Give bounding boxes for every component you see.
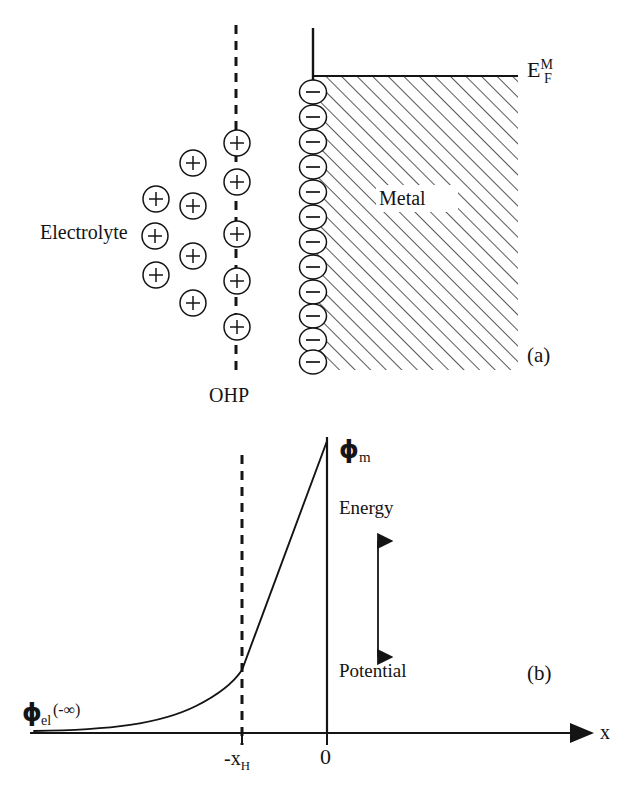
anion <box>300 328 327 352</box>
anion <box>300 230 327 254</box>
potential-label: Potential <box>339 661 407 680</box>
phi-metal-symbol: ϕ <box>339 435 359 464</box>
phi-electrolyte-symbol: ϕ <box>22 698 42 727</box>
panel-b-graphics <box>30 437 592 745</box>
anion <box>300 205 327 229</box>
energy-label: Energy <box>339 498 394 517</box>
cation <box>224 268 250 294</box>
cation <box>180 290 206 316</box>
x-axis-label: x <box>600 722 610 742</box>
figure-container: Electrolyte Metal OHP EMF (a) ϕm Energy … <box>0 0 622 790</box>
cation <box>224 130 250 156</box>
potential-curve <box>34 441 327 731</box>
metal-label: Metal <box>379 188 426 208</box>
cation <box>180 243 206 269</box>
cation <box>180 150 206 176</box>
cation <box>142 223 168 249</box>
anion <box>300 350 327 374</box>
tick-label-zero: 0 <box>320 746 331 768</box>
phi-electrolyte-superscript: (-∞) <box>53 701 80 718</box>
tick-xh-prefix: -x <box>224 747 241 769</box>
anion <box>300 105 327 129</box>
cation <box>143 186 169 212</box>
anion <box>300 130 327 154</box>
fermi-level-label: EMF <box>527 57 552 85</box>
fermi-symbol: E <box>527 57 540 82</box>
tick-label-minus-xh: -xH <box>224 748 250 773</box>
anion <box>300 80 327 104</box>
anion <box>300 180 327 204</box>
tick-xh-subscript: H <box>241 759 250 773</box>
metal-hatched-region <box>313 76 518 370</box>
ohp-label: OHP <box>209 385 249 405</box>
panel-a-tag: (a) <box>527 345 550 366</box>
anion <box>300 255 327 279</box>
anion <box>300 155 327 179</box>
electrolyte-label: Electrolyte <box>40 222 128 242</box>
anion <box>300 280 327 304</box>
anion <box>300 304 327 328</box>
cation <box>143 262 169 288</box>
panel-b-tag: (b) <box>527 663 552 684</box>
phi-metal-label: ϕm <box>339 437 371 465</box>
phi-metal-subscript: m <box>359 449 371 465</box>
cation <box>224 169 250 195</box>
cation <box>224 221 250 247</box>
cation <box>224 314 250 340</box>
cation-group <box>142 130 250 340</box>
cation <box>180 193 206 219</box>
phi-electrolyte-label: ϕel(-∞) <box>22 700 80 728</box>
fermi-subscript: F <box>544 71 552 85</box>
phi-electrolyte-subscript: el <box>41 713 51 728</box>
panel-a-graphics <box>142 25 518 377</box>
